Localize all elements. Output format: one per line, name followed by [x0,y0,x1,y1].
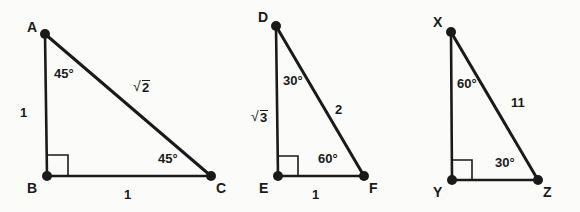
vertex-dot-z [533,175,543,185]
vertex-label-e: E [259,181,269,195]
radicand-ac: 2 [142,80,150,95]
radical-sign-icon: √ [133,79,141,93]
vertex-label-d: D [258,10,268,24]
radicand-de: 3 [260,110,268,125]
vertex-label-x: X [433,15,443,29]
vertex-dot-e [273,171,283,181]
vertex-dot-f [359,171,369,181]
side-label-ab: 1 [20,106,27,119]
special-right-triangles-figure: A B C 45° 45° 1 1 √ 2 D E F 30° 60° 2 1 … [0,0,580,212]
angle-label-c: 45° [158,152,178,165]
vertex-label-y: Y [433,185,443,199]
vertex-dot-a [40,29,50,39]
radical-sign-icon: √ [251,109,259,123]
side-label-bc: 1 [124,188,131,201]
segment-xy [451,32,452,180]
side-label-ac: √ 2 [133,79,150,95]
angle-label-x: 60° [457,77,477,90]
vertex-label-f: F [369,181,378,195]
vertex-dot-b [42,171,52,181]
angle-label-z: 30° [495,156,515,169]
side-label-de: √ 3 [251,109,268,125]
vertex-dot-d [271,21,281,31]
segment-ac [45,34,211,176]
vertex-label-b: B [27,181,37,195]
segment-de [276,26,278,176]
side-label-ef: 1 [312,188,319,201]
side-label-xz: 11 [511,96,525,109]
segment-ab [45,34,47,176]
vertex-dot-y [447,175,457,185]
angle-label-f: 60° [318,152,338,165]
vertex-dot-x [446,27,456,37]
vertex-dot-c [206,171,216,181]
angle-label-a: 45° [54,67,74,80]
triangles-svg [0,0,580,212]
vertex-label-z: Z [543,185,552,199]
triangle-abc-group [40,29,216,181]
side-label-df: 2 [335,103,342,116]
vertex-label-c: C [216,181,226,195]
angle-label-d: 30° [283,74,303,87]
vertex-label-a: A [27,20,37,34]
